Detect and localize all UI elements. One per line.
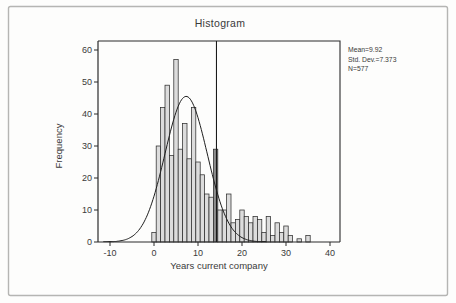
histogram-bar [152,232,156,242]
histogram-bar [288,236,292,242]
histogram-bar [200,175,204,242]
y-tick-label: 60 [82,45,92,55]
mean-stat: Mean=9.92 [348,46,382,53]
histogram-bar [262,232,266,242]
histogram-bar [253,216,257,242]
histogram-chart: Histogram 0102030405060-10010203040 Freq… [0,0,456,303]
histogram-bar [306,236,310,242]
x-axis-label: Years current company [170,260,268,271]
stats-annotation: Mean=9.92 Std. Dev.=7.373 N=577 [348,46,397,72]
x-tick-label: -10 [103,248,116,258]
histogram-bar [191,108,195,242]
histogram-bar [257,220,261,242]
histogram-bar [266,216,270,242]
histogram-bar [156,146,160,242]
y-tick-label: 30 [82,141,92,151]
x-tick-label: 30 [281,248,291,258]
histogram-bar [271,236,275,242]
highlighted-histogram-bar [213,149,217,242]
y-tick-label: 50 [82,77,92,87]
x-tick-label: 20 [237,248,247,258]
x-tick-label: 0 [151,248,156,258]
stddev-stat: Std. Dev.=7.373 [348,56,397,63]
chart-title: Histogram [195,17,246,29]
y-tick-label: 0 [87,237,92,247]
histogram-bar [284,226,288,242]
histogram-bar [249,223,253,242]
histogram-bar [209,197,213,242]
histogram-bar [244,216,248,242]
histogram-bar [174,60,178,242]
histogram-bar [178,149,182,242]
y-tick-label: 10 [82,205,92,215]
histogram-bar [161,108,165,242]
histogram-bar [169,156,173,242]
figure-canvas: Histogram 0102030405060-10010203040 Freq… [0,0,456,303]
histogram-bar [279,232,283,242]
histogram-bar [196,162,200,242]
histogram-bar [275,223,279,242]
y-tick-label: 20 [82,173,92,183]
histogram-bar [205,194,209,242]
histogram-bar [187,159,191,242]
n-stat: N=577 [348,65,368,72]
histogram-bar [218,210,222,242]
histogram-bar [227,194,231,242]
bars-layer [152,60,310,242]
histogram-bar [165,85,169,242]
x-tick-label: 10 [193,248,203,258]
histogram-bar [183,124,187,242]
y-axis-label: Frequency [53,123,64,168]
y-tick-label: 40 [82,109,92,119]
histogram-bar [235,220,239,242]
x-tick-label: 40 [325,248,335,258]
